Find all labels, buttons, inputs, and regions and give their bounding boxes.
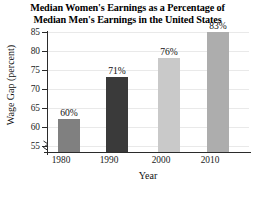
y-axis-line [47,31,48,155]
x-tick-label-2000: 2000 [139,156,183,165]
axis-break-icon [42,140,51,153]
bar-2000 [158,58,180,152]
y-tick-label-75: 75 [14,66,40,75]
bar-chart: Median Women's Earnings as a Percentage … [0,0,255,199]
bar-label-1980: 60% [49,108,89,118]
y-tick-70 [42,89,47,90]
bar-label-2010: 83% [198,21,238,31]
chart-title-line-1: Median Women's Earnings as a Percentage … [8,2,247,14]
y-tick-label-80: 80 [14,47,40,56]
y-tick-label-55: 55 [14,142,40,151]
plot-area: 60% 71% 76% 83% [47,32,249,152]
y-tick-label-70: 70 [14,85,40,94]
bar-label-2000: 76% [149,47,189,57]
y-tick-60 [42,127,47,128]
x-tick-label-2010: 2010 [188,156,232,165]
y-tick-80 [42,51,47,52]
y-tick-label-60: 60 [14,123,40,132]
x-tick-label-1990: 1990 [87,156,131,165]
x-axis-title: Year [47,171,249,181]
bar-1990 [106,77,128,152]
x-tick-label-1980: 1980 [39,156,83,165]
bar-label-1990: 71% [97,66,137,76]
bar-2010 [207,32,229,152]
bar-1980 [58,119,80,152]
x-axis-line [44,152,251,153]
y-tick-label-65: 65 [14,104,40,113]
y-tick-label-85: 85 [14,28,40,37]
y-tick-85 [42,32,47,33]
y-tick-75 [42,70,47,71]
y-tick-65 [42,108,47,109]
